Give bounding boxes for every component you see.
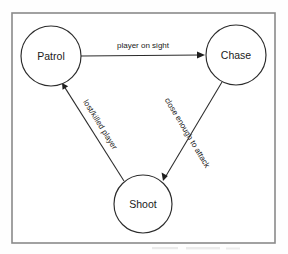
state-label-chase: Chase bbox=[221, 49, 252, 61]
edge-label-patrol-to-chase: player on sight bbox=[117, 41, 170, 50]
state-label-patrol: Patrol bbox=[37, 50, 64, 62]
state-label-shoot: Shoot bbox=[129, 198, 157, 210]
diagram-canvas: player on sight close enough to attack l… bbox=[0, 0, 288, 254]
state-node-shoot[interactable]: Shoot bbox=[114, 175, 172, 233]
state-node-chase[interactable]: Chase bbox=[206, 25, 266, 85]
state-node-patrol[interactable]: Patrol bbox=[21, 26, 81, 86]
state-machine-diagram: player on sight close enough to attack l… bbox=[0, 0, 288, 254]
scan-artifacts bbox=[152, 247, 240, 250]
